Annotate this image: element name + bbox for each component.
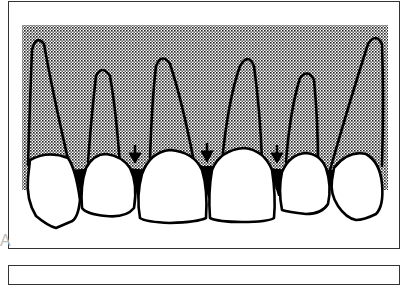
crown-left-lateral-incisor (280, 153, 330, 214)
stipple-region (22, 25, 388, 190)
crown-left-central-incisor (209, 148, 274, 222)
panel-label: A (0, 232, 11, 250)
crown-right-canine (28, 154, 80, 228)
crown-right-lateral-incisor (82, 154, 136, 216)
crown-right-central-incisor (138, 150, 206, 223)
